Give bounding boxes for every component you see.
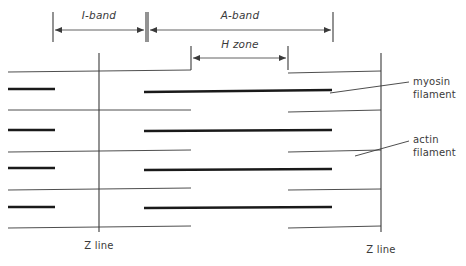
h-zone-dimension: H zone (191, 38, 288, 70)
z-line-right-label: Z line (366, 244, 395, 255)
filament-row-actin-6 (8, 188, 381, 190)
myosin-filament (144, 169, 332, 170)
z-line-left-label: Z line (84, 240, 113, 251)
myosin-filament-label-line1: myosin (413, 76, 450, 87)
i-band-arrowhead-left (55, 27, 62, 33)
actin-filament (288, 110, 381, 112)
myosin-filament-label-line2: filament (413, 89, 456, 100)
actin-filament (288, 71, 381, 73)
a-band-arrowhead-left (150, 27, 157, 33)
myosin-filament (144, 207, 332, 208)
h-zone-label: H zone (221, 38, 258, 50)
filament-row-myosin-1 (8, 89, 332, 92)
actin-filament-callout: actin filament (355, 134, 456, 158)
actin-filament-label-line2: filament (413, 147, 456, 158)
actin-filament-label-line1: actin (413, 134, 439, 145)
i-band-dimension: I-band (53, 9, 146, 42)
filament-row-myosin-3 (8, 130, 332, 131)
i-band-arrowhead-right (137, 27, 144, 33)
h-zone-arrowhead-right (279, 55, 286, 61)
sarcomere-diagram: I-band A-band H zone (0, 0, 466, 266)
actin-filament (288, 189, 381, 190)
i-band-label: I-band (82, 9, 117, 21)
actin-filament (288, 226, 381, 228)
actin-filament (288, 150, 381, 152)
filament-row-myosin-7 (8, 207, 332, 208)
h-zone-arrowhead-left (193, 55, 200, 61)
filament-row-actin-8 (8, 226, 381, 228)
filament-row-actin-4 (8, 150, 381, 152)
actin-leader-line (355, 141, 409, 156)
a-band-label: A-band (220, 9, 260, 21)
a-band-arrowhead-right (324, 27, 331, 33)
filament-row-actin-0 (8, 70, 381, 73)
filament-row-myosin-5 (8, 168, 332, 170)
myosin-filament-callout: myosin filament (330, 76, 456, 100)
myosin-filament (144, 130, 332, 131)
myosin-leader-line (330, 82, 409, 93)
diagram-canvas: I-band A-band H zone (0, 0, 466, 266)
myosin-filament (144, 90, 332, 92)
filament-row-actin-2 (8, 110, 381, 112)
